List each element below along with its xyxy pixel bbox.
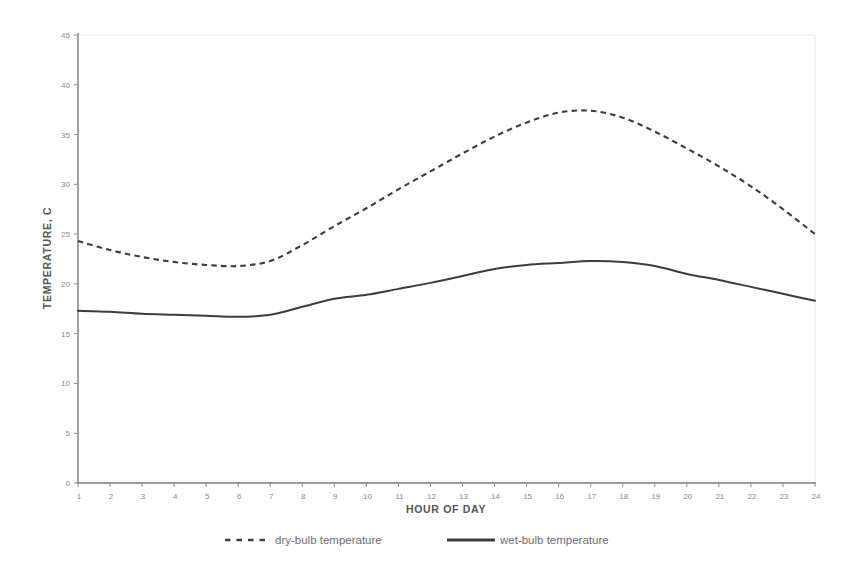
x-tick-label: 13 bbox=[459, 492, 468, 501]
y-tick-label: 10 bbox=[61, 379, 70, 388]
x-axis-title: HOUR OF DAY bbox=[406, 503, 486, 515]
x-tick-label: 1 bbox=[77, 492, 82, 501]
x-tick-label: 9 bbox=[333, 492, 338, 501]
x-tick-label: 3 bbox=[141, 492, 146, 501]
x-tick-label: 19 bbox=[651, 492, 660, 501]
y-tick-label: 5 bbox=[66, 429, 71, 438]
legend-label-wet-bulb: wet-bulb temperature bbox=[499, 534, 609, 546]
y-tick-label: 20 bbox=[61, 280, 70, 289]
y-tick-label: 40 bbox=[61, 81, 70, 90]
legend-label-dry-bulb: dry-bulb temperature bbox=[275, 534, 382, 546]
x-tick-label: 8 bbox=[301, 492, 306, 501]
x-tick-label: 24 bbox=[812, 492, 821, 501]
x-tick-label: 20 bbox=[683, 492, 692, 501]
x-tick-label: 15 bbox=[523, 492, 532, 501]
y-tick-label: 0 bbox=[66, 479, 71, 488]
x-tick-label: 22 bbox=[747, 492, 756, 501]
x-tick-label: 23 bbox=[780, 492, 789, 501]
chart-figure: 051015202530354045 TEMPERATURE, C 123456… bbox=[0, 0, 851, 570]
x-tick-label: 18 bbox=[619, 492, 628, 501]
y-axis-title: TEMPERATURE, C bbox=[41, 207, 53, 309]
chart-background bbox=[0, 0, 851, 570]
x-tick-label: 4 bbox=[173, 492, 178, 501]
x-tick-label: 6 bbox=[237, 492, 242, 501]
y-tick-label: 30 bbox=[61, 180, 70, 189]
x-tick-label: 21 bbox=[715, 492, 724, 501]
y-tick-label: 15 bbox=[61, 330, 70, 339]
y-tick-label: 45 bbox=[61, 31, 70, 40]
y-tick-label: 35 bbox=[61, 131, 70, 140]
x-tick-label: 16 bbox=[555, 492, 564, 501]
x-tick-label: 7 bbox=[269, 492, 274, 501]
x-tick-label: 12 bbox=[427, 492, 436, 501]
y-tick-label: 25 bbox=[61, 230, 70, 239]
x-tick-label: 17 bbox=[587, 492, 596, 501]
x-tick-label: 14 bbox=[491, 492, 500, 501]
x-tick-label: 5 bbox=[205, 492, 210, 501]
temperature-line-chart: 051015202530354045 TEMPERATURE, C 123456… bbox=[0, 0, 851, 570]
x-tick-label: 11 bbox=[395, 492, 404, 501]
x-tick-label: 10 bbox=[363, 492, 372, 501]
x-tick-label: 2 bbox=[109, 492, 114, 501]
